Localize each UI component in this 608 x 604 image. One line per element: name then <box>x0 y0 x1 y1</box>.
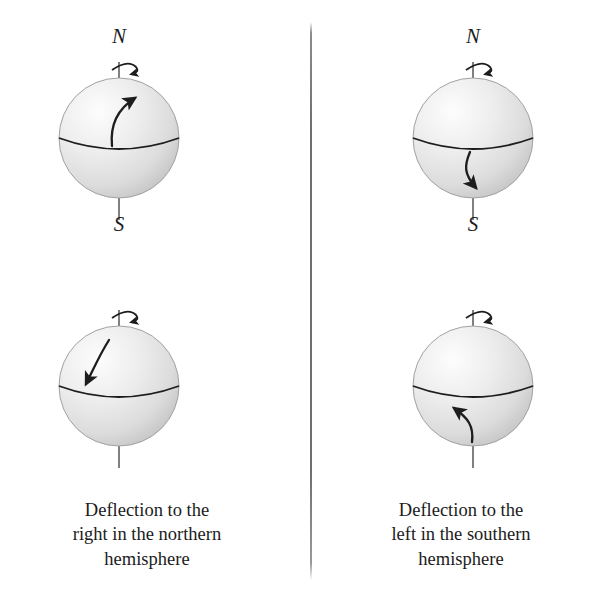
caption-line: left in the southern <box>338 522 584 546</box>
south-pole-label: S <box>104 214 134 235</box>
rotation-direction-arrow <box>112 312 137 322</box>
rotation-direction-arrow <box>112 64 137 74</box>
sphere-body <box>59 326 179 446</box>
coriolis-deflection-figure: N S <box>0 0 608 604</box>
south-pole-label: S <box>458 214 488 235</box>
globe-diagram <box>36 48 266 248</box>
caption-line: right in the northern <box>24 522 270 546</box>
globe-diagram <box>390 296 608 496</box>
caption-northern-hemisphere: Deflection to the right in the northern … <box>24 498 270 571</box>
caption-line: Deflection to the <box>24 498 270 522</box>
globe-diagram <box>390 48 608 248</box>
globe-diagram <box>36 296 266 496</box>
globe-northern-poleward-flow: N S <box>36 48 266 278</box>
vertical-divider <box>310 22 312 580</box>
sphere-body <box>413 326 533 446</box>
north-pole-label: N <box>104 26 134 47</box>
rotation-direction-arrow <box>466 312 491 322</box>
caption-southern-hemisphere: Deflection to the left in the southern h… <box>338 498 584 571</box>
caption-line: Deflection to the <box>338 498 584 522</box>
caption-line: hemisphere <box>24 547 270 571</box>
globe-southern-equatorward-flow <box>390 296 608 526</box>
sphere-body <box>413 78 533 198</box>
globe-northern-equatorward-flow <box>36 296 266 526</box>
sphere-body <box>59 78 179 198</box>
north-pole-label: N <box>458 26 488 47</box>
rotation-direction-arrow <box>466 64 491 74</box>
caption-line: hemisphere <box>338 547 584 571</box>
globe-southern-poleward-flow: N S <box>390 48 608 278</box>
